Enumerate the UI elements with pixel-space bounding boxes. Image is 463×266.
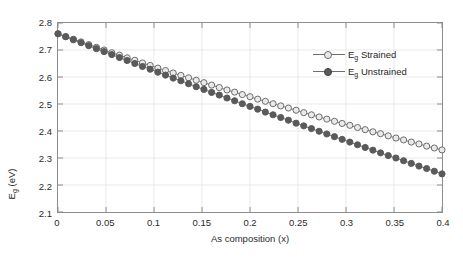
data-point-marker	[293, 107, 299, 113]
data-point-marker	[377, 150, 383, 156]
x-axis-title: As composition (x)	[57, 233, 443, 244]
data-point-marker	[255, 106, 261, 112]
legend-sample-unstrained	[313, 66, 345, 78]
data-point-marker	[185, 75, 191, 81]
open-circle-icon	[324, 51, 332, 59]
data-point-marker	[385, 133, 391, 139]
y-tick-label: 2.8	[39, 17, 52, 28]
y-axis-title: Eg (eV)	[6, 144, 18, 224]
legend-label-unstrained: Eg Unstrained	[348, 66, 407, 78]
data-point-marker	[209, 82, 215, 88]
data-point-marker	[316, 114, 322, 120]
y-axis-title-wrapper: Eg (eV)	[2, 78, 18, 158]
data-point-marker	[224, 95, 230, 101]
data-point-marker	[262, 98, 268, 104]
y-tick-label: 2.6	[39, 71, 52, 82]
y-tick-label: 2.1	[39, 208, 52, 219]
x-tick-label: 0.1	[147, 217, 160, 228]
data-point-marker	[354, 124, 360, 130]
data-point-marker	[247, 94, 253, 100]
x-tick-label: 0.15	[193, 217, 212, 228]
data-point-marker	[193, 84, 199, 90]
y-tick-label: 2.7	[39, 44, 52, 55]
data-point-marker	[377, 131, 383, 137]
data-point-marker	[316, 128, 322, 134]
data-point-marker	[224, 87, 230, 93]
y-tick-label: 2.2	[39, 180, 52, 191]
data-point-marker	[255, 96, 261, 102]
data-point-marker	[270, 101, 276, 107]
data-point-marker	[439, 147, 445, 153]
data-point-marker	[424, 165, 430, 171]
x-tick-label: 0.35	[386, 217, 405, 228]
chart-legend: Eg Strained Eg Unstrained	[313, 46, 423, 80]
data-point-marker	[339, 136, 345, 142]
data-point-marker	[408, 160, 414, 166]
legend-label-strained-rest: Strained	[358, 49, 396, 60]
legend-item-strained: Eg Strained	[313, 46, 423, 63]
x-tick-label: 0.3	[340, 217, 353, 228]
y-axis-title-rest: (eV)	[6, 169, 17, 190]
y-tick-label: 2.3	[39, 153, 52, 164]
data-point-marker	[370, 129, 376, 135]
data-point-marker	[393, 155, 399, 161]
data-point-marker	[232, 89, 238, 95]
data-point-marker	[331, 118, 337, 124]
data-point-marker	[55, 31, 61, 37]
data-point-marker	[431, 145, 437, 151]
data-point-marker	[331, 134, 337, 140]
data-point-marker	[216, 84, 222, 90]
data-point-marker	[362, 127, 368, 133]
x-tick-label: 0	[54, 217, 59, 228]
data-point-marker	[401, 158, 407, 164]
data-point-marker	[147, 66, 153, 72]
legend-sample-strained	[313, 49, 345, 61]
data-point-marker	[155, 69, 161, 75]
data-point-marker	[370, 147, 376, 153]
data-point-marker	[301, 123, 307, 129]
data-point-marker	[139, 63, 145, 69]
y-tick-label: 2.4	[39, 126, 52, 137]
data-point-marker	[201, 86, 207, 92]
data-point-marker	[239, 91, 245, 97]
x-tick-label: 0.05	[96, 217, 115, 228]
x-tick-label: 0.25	[289, 217, 308, 228]
data-point-marker	[285, 117, 291, 123]
data-point-marker	[193, 77, 199, 83]
data-point-marker	[347, 122, 353, 128]
data-point-marker	[63, 34, 69, 40]
filled-circle-icon	[324, 68, 332, 76]
data-point-marker	[385, 152, 391, 158]
data-point-marker	[416, 141, 422, 147]
y-axis-title-base: E	[6, 193, 17, 199]
data-point-marker	[216, 92, 222, 98]
data-point-marker	[285, 105, 291, 111]
data-point-marker	[239, 101, 245, 107]
data-point-marker	[431, 168, 437, 174]
data-point-marker	[347, 139, 353, 145]
data-point-marker	[185, 81, 191, 87]
data-point-marker	[209, 89, 215, 95]
data-point-marker	[401, 137, 407, 143]
x-axis-tick-labels: 00.050.10.150.20.250.30.350.4	[57, 217, 443, 233]
data-point-marker	[278, 103, 284, 109]
data-point-marker	[424, 143, 430, 149]
data-point-marker	[439, 171, 445, 177]
data-point-marker	[170, 75, 176, 81]
chart-figure: 2.12.22.32.42.52.62.72.8 Eg (eV) 00.050.…	[0, 0, 463, 266]
data-point-marker	[93, 46, 99, 52]
data-point-marker	[301, 110, 307, 116]
data-point-marker	[101, 49, 107, 55]
data-point-marker	[162, 72, 168, 78]
legend-label-unstrained-rest: Unstrained	[358, 66, 407, 77]
data-point-marker	[416, 163, 422, 169]
data-point-marker	[308, 126, 314, 132]
data-point-marker	[232, 98, 238, 104]
x-tick-label: 0.2	[243, 217, 256, 228]
y-tick-label: 2.5	[39, 98, 52, 109]
data-point-marker	[308, 112, 314, 118]
legend-label-strained: Eg Strained	[348, 49, 396, 61]
data-point-marker	[278, 114, 284, 120]
data-point-marker	[324, 116, 330, 122]
data-point-marker	[86, 43, 92, 49]
